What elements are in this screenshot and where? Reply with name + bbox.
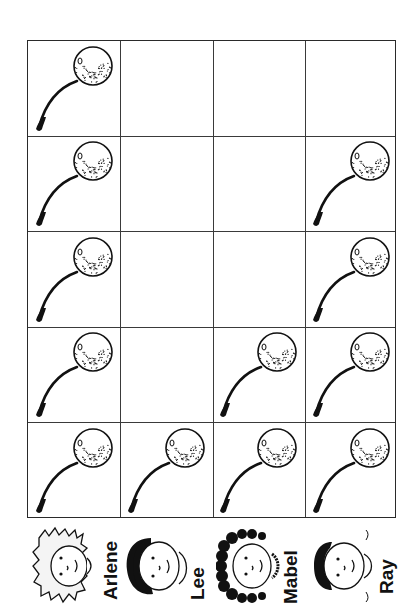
cherry-icon <box>305 327 397 422</box>
category-mabel: Mabel <box>212 520 304 615</box>
lee-face-icon <box>123 526 191 606</box>
cherry-icon <box>305 423 397 518</box>
pictograph-grid <box>27 40 396 518</box>
cherry-icon <box>28 136 120 231</box>
cherry-icon <box>28 423 120 518</box>
cherry-icon <box>28 232 120 327</box>
cherry-icon <box>28 327 120 422</box>
cherry-icon <box>212 423 304 518</box>
cherry-icon <box>28 41 120 136</box>
category-label: Ray <box>376 559 398 594</box>
cherry-cell <box>28 423 120 519</box>
cherry-cell <box>212 423 304 519</box>
mabel-face-icon <box>216 526 284 606</box>
category-ray: Ray <box>304 520 396 615</box>
arlene-face-icon <box>31 526 99 606</box>
cherry-icon <box>120 423 212 518</box>
category-lee: Lee <box>119 520 211 615</box>
category-arlene: Arlene <box>27 520 119 615</box>
cherry-cell <box>28 41 120 137</box>
cherry-cell <box>305 327 397 423</box>
cherry-cell <box>305 423 397 519</box>
ray-face-icon <box>308 526 376 606</box>
category-label: Mabel <box>280 550 302 604</box>
cherry-cell <box>28 232 120 328</box>
cherry-cell <box>28 327 120 423</box>
cherry-icon <box>305 136 397 231</box>
cherry-cell <box>120 423 212 519</box>
cherry-cell <box>28 136 120 232</box>
cherry-cell <box>305 232 397 328</box>
cherry-icon <box>212 327 304 422</box>
cherry-cell <box>305 136 397 232</box>
cherry-cell <box>212 327 304 423</box>
category-label: Lee <box>187 567 209 600</box>
cherry-icon <box>305 232 397 327</box>
